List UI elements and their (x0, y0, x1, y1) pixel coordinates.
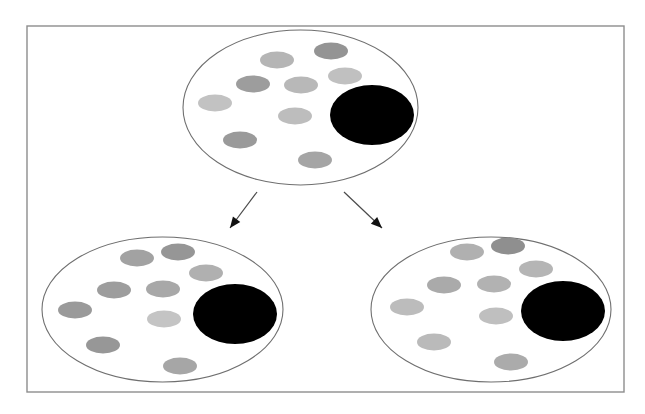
small-cell-2 (161, 244, 195, 261)
arrow-to-left-daughter (230, 192, 257, 228)
small-cell-9 (163, 358, 197, 375)
small-cell-7 (479, 308, 513, 325)
small-cell-8 (417, 334, 451, 351)
small-cell-9 (298, 152, 332, 169)
small-cell-4 (97, 282, 131, 299)
large-black-cell (330, 85, 414, 145)
small-cell-4 (236, 76, 270, 93)
small-cell-6 (390, 299, 424, 316)
small-cell-3 (328, 68, 362, 85)
small-cell-6 (198, 95, 232, 112)
small-cell-4 (427, 277, 461, 294)
small-cell-2 (491, 238, 525, 255)
small-cell-5 (146, 281, 180, 298)
parent-population (183, 30, 418, 185)
arrow-to-right-daughter (344, 192, 382, 228)
small-cell-3 (189, 265, 223, 282)
arrow-to-left-daughter-head (230, 216, 240, 228)
small-cell-1 (260, 52, 294, 69)
large-black-cell (193, 284, 277, 344)
daughter-population-right (371, 237, 611, 382)
small-cell-7 (278, 108, 312, 125)
small-cell-1 (120, 250, 154, 267)
small-cell-8 (86, 337, 120, 354)
daughter-population-left (42, 237, 283, 382)
small-cell-3 (519, 261, 553, 278)
population-group (42, 30, 611, 382)
small-cell-7 (147, 311, 181, 328)
population-division-diagram (0, 0, 645, 414)
small-cell-5 (284, 77, 318, 94)
diagram-canvas (0, 0, 645, 414)
small-cell-8 (223, 132, 257, 149)
small-cell-5 (477, 276, 511, 293)
small-cell-6 (58, 302, 92, 319)
large-black-cell (521, 281, 605, 341)
arrow-group (230, 192, 382, 228)
small-cell-2 (314, 43, 348, 60)
small-cell-1 (450, 244, 484, 261)
small-cell-9 (494, 354, 528, 371)
